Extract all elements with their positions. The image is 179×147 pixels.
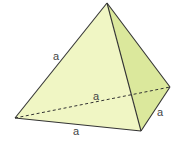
- tetrahedron-diagram: a a a a: [0, 0, 179, 147]
- label-bottom-edge: a: [73, 125, 80, 137]
- front-face: [15, 3, 141, 131]
- label-hidden-edge: a: [93, 90, 100, 102]
- label-right-bottom-edge: a: [157, 106, 164, 118]
- label-left-edge: a: [53, 50, 60, 62]
